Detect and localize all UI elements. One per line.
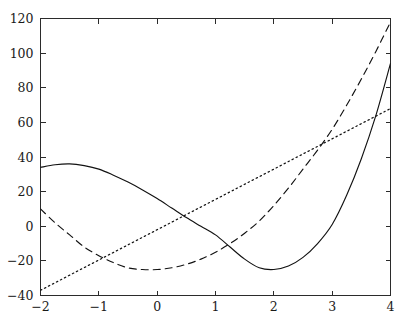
data-series-group (41, 22, 391, 290)
plot-frame (41, 19, 391, 296)
series-solid-curve (41, 64, 391, 270)
line-chart: −40−20020406080100120 −2−101234 (0, 0, 416, 334)
y-tick-label: −20 (7, 253, 33, 268)
y-axis-ticks: −40−20020406080100120 (7, 11, 390, 303)
x-tick-label: 2 (270, 299, 278, 314)
x-tick-label: 3 (328, 299, 336, 314)
x-tick-label: −1 (90, 299, 108, 314)
y-tick-label: −40 (7, 288, 33, 303)
series-dashed-curve (41, 22, 391, 270)
clipped-caption (0, 324, 416, 334)
series-dotted-line (41, 109, 391, 291)
axes-frame-group (41, 19, 391, 296)
y-tick-label: 100 (10, 46, 34, 61)
x-tick-label: 4 (387, 299, 395, 314)
y-tick-label: 40 (18, 150, 34, 165)
y-tick-label: 60 (18, 115, 34, 130)
x-tick-label: 1 (212, 299, 220, 314)
figure-container: −40−20020406080100120 −2−101234 (0, 0, 416, 334)
x-tick-label: −2 (31, 299, 49, 314)
y-tick-label: 80 (18, 80, 34, 95)
y-tick-label: 0 (26, 219, 34, 234)
y-tick-label: 120 (10, 11, 34, 26)
y-tick-label: 20 (18, 184, 34, 199)
x-tick-label: 0 (153, 299, 161, 314)
